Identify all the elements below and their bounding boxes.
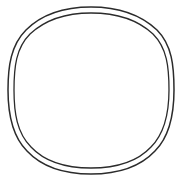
double-circle-illustration: double circle outline	[0, 0, 183, 186]
figure-canvas: double circle outline	[0, 0, 183, 186]
